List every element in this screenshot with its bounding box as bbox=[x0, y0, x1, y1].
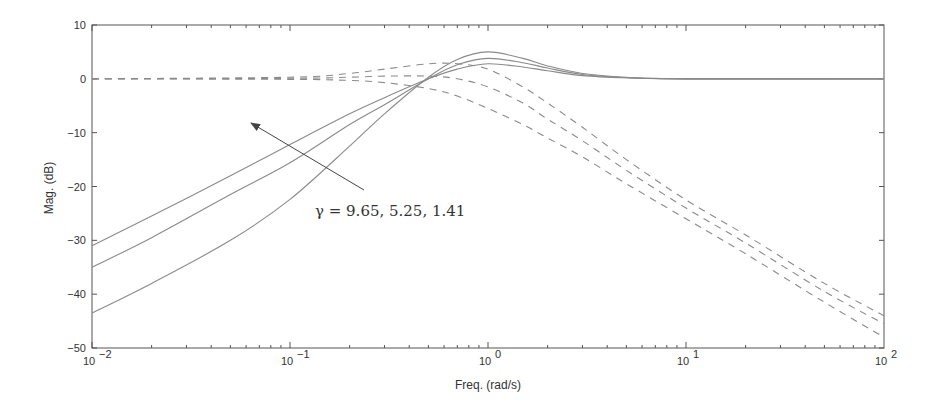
x-tick-label: 10 bbox=[677, 355, 689, 367]
y-tick-label: −30 bbox=[67, 234, 86, 246]
x-tick-exponent: 1 bbox=[693, 348, 699, 360]
solid-curve bbox=[92, 58, 884, 267]
x-tick-exponent: 0 bbox=[495, 348, 501, 360]
x-axis-label: Freq. (rad/s) bbox=[455, 378, 521, 392]
y-tick-label: −50 bbox=[67, 342, 86, 354]
solid-curve bbox=[92, 64, 884, 246]
x-tick-label: 10 bbox=[875, 355, 887, 367]
solid-curve bbox=[92, 52, 884, 313]
y-tick-label: −40 bbox=[67, 288, 86, 300]
plot-frame bbox=[92, 25, 884, 348]
annotation-text: γ = 9.65, 5.25, 1.41 bbox=[315, 202, 465, 220]
x-tick-exponent: 2 bbox=[891, 348, 897, 360]
y-tick-label: −10 bbox=[67, 127, 86, 139]
bode-magnitude-chart: 100−10−20−30−40−5010−210−1100101102 γ = … bbox=[0, 0, 932, 408]
y-tick-label: −20 bbox=[67, 181, 86, 193]
dashed-curve bbox=[92, 76, 884, 324]
dashed-curve bbox=[92, 63, 884, 316]
y-axis-label: Mag. (dB) bbox=[42, 162, 56, 215]
dashed-curve bbox=[92, 79, 884, 337]
y-tick-label: 0 bbox=[80, 73, 86, 85]
x-tick-label: 10 bbox=[479, 355, 491, 367]
data-series bbox=[92, 52, 884, 337]
y-tick-label: 10 bbox=[74, 19, 86, 31]
plot-area-border bbox=[92, 25, 884, 348]
x-tick-exponent: −2 bbox=[99, 348, 112, 360]
x-tick-label: 10 bbox=[83, 355, 95, 367]
x-tick-exponent: −1 bbox=[297, 348, 310, 360]
axis-ticks: 100−10−20−30−40−5010−210−1100101102 bbox=[67, 19, 897, 367]
x-tick-label: 10 bbox=[281, 355, 293, 367]
